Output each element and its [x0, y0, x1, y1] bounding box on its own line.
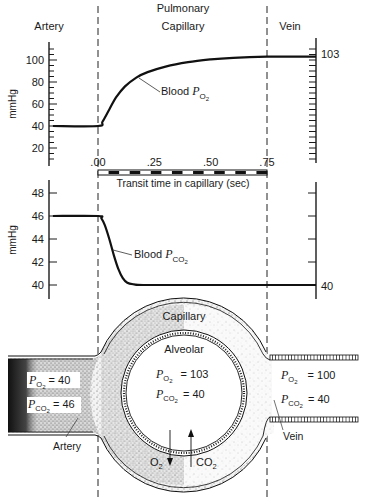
- po2-ytick-label: 40: [32, 120, 44, 132]
- scale-bar-segment: [214, 171, 225, 174]
- pulmonary-gas-exchange-figure: Pulmonary Artery Capillary Vein 20406080…: [0, 0, 370, 499]
- vein-upper-wall: [270, 355, 358, 360]
- pco2-curve: [53, 216, 316, 285]
- capillary-region-label: Capillary: [162, 20, 205, 32]
- pulmonary-label: Pulmonary: [157, 2, 210, 14]
- scale-bar-segment: [130, 171, 141, 174]
- xtick-label: .50: [203, 156, 218, 168]
- pco2-ytick-label: 48: [32, 187, 44, 199]
- scale-bar-segment: [193, 171, 204, 174]
- po2-curve-label: Blood PO2: [161, 84, 210, 102]
- pco2-ylabel: mmHg: [7, 225, 18, 254]
- pco2-chart: 4042444648 mmHg Blood PCO2 40: [7, 180, 333, 299]
- vein-lower-wall: [270, 417, 358, 422]
- pco2-ytick-label: 42: [32, 256, 44, 268]
- po2-end-value: 103: [321, 48, 339, 60]
- artery-dark-end: [8, 359, 38, 432]
- po2-curve-leader: [139, 78, 160, 92]
- pco2-ytick-label: 40: [32, 279, 44, 291]
- pco2-ytick-label: 46: [32, 210, 44, 222]
- vein-region-label: Vein: [279, 20, 300, 32]
- scale-bar-segment: [109, 171, 120, 174]
- vein-label: Vein: [283, 430, 304, 442]
- po2-ytick-label: 80: [32, 76, 44, 88]
- artery-region-label: Artery: [34, 20, 64, 32]
- po2-chart: 20406080100 mmHg Blood PO2 103: [7, 38, 339, 166]
- alveolar-label: Alveolar: [164, 343, 204, 355]
- capillary-label: Capillary: [163, 310, 206, 322]
- po2-ytick-label: 20: [32, 142, 44, 154]
- scale-bar-segment: [256, 171, 267, 174]
- xtick-label: .00: [90, 156, 105, 168]
- transit-time-scale-bar: [98, 170, 267, 175]
- artery-label: Artery: [53, 440, 82, 452]
- pco2-end-value: 40: [321, 280, 333, 292]
- scale-bar-segment: [151, 171, 162, 174]
- xtick-label: .25: [147, 156, 162, 168]
- pco2-curve-label: Blood PCO2: [134, 247, 189, 265]
- po2-ylabel: mmHg: [7, 89, 18, 118]
- scale-bar-segment: [235, 171, 246, 174]
- po2-ytick-label: 100: [26, 54, 44, 66]
- pco2-curve-leader: [113, 250, 132, 255]
- xtick-label: .75: [259, 156, 274, 168]
- capillary-diagram: Capillary Alveolar PO2= 103 PCO2= 40 PO2…: [8, 298, 362, 492]
- po2-ytick-label: 60: [32, 98, 44, 110]
- transit-time-label: Transit time in capillary (sec): [116, 177, 249, 189]
- scale-bar-segment: [172, 171, 183, 174]
- pco2-ytick-label: 44: [32, 233, 44, 245]
